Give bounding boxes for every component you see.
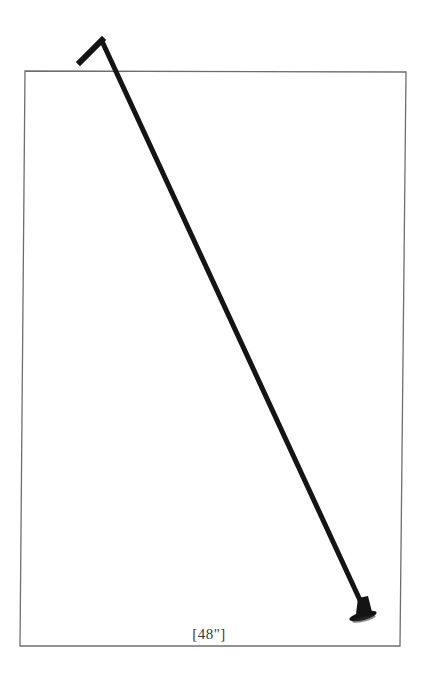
rod-hook-arm xyxy=(80,40,102,62)
rod-shaft xyxy=(101,39,365,611)
dimension-caption-text: [48"] xyxy=(192,626,226,643)
figure-illustration xyxy=(0,0,424,682)
dimension-caption: [48"] xyxy=(0,626,424,643)
figure-stage: [48"] xyxy=(0,0,424,682)
frame-border xyxy=(20,71,406,646)
